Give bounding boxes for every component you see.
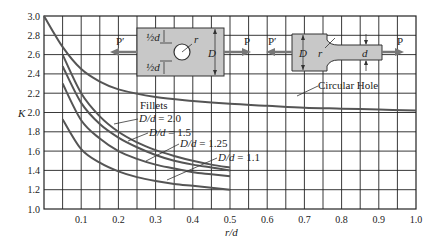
fillets-label: Fillets <box>140 99 168 111</box>
x-axis-label: r/d <box>225 226 238 238</box>
hole-top-dim: ½d <box>146 31 160 43</box>
hole-radius-label: r <box>194 33 199 45</box>
hole-left-load: P′ <box>116 35 125 47</box>
y-tick-label: 2.8 <box>28 30 41 41</box>
fillet-left-load: P′ <box>268 35 277 47</box>
x-tick-label: 0.2 <box>112 214 125 225</box>
x-tick-label: 0.4 <box>187 214 200 225</box>
dd20-label: D/d = 2.0 <box>138 112 181 124</box>
fillet-radius-label: r <box>318 47 323 59</box>
dd125-label: D/d = 1.25 <box>179 137 228 149</box>
fillet-right-load: P <box>397 35 403 47</box>
x-tick-label: 0.5 <box>224 214 237 225</box>
axes: 1.01.21.41.61.82.02.22.42.62.83.00.10.20… <box>28 11 423 226</box>
fillet-wide-label: D <box>298 47 307 59</box>
x-tick-label: 0.3 <box>149 214 162 225</box>
y-tick-label: 1.2 <box>28 184 41 195</box>
x-tick-label: 0.7 <box>298 214 311 225</box>
curve-d-d-1-25 <box>63 84 230 177</box>
y-tick-label: 2.0 <box>28 107 41 118</box>
x-tick-label: 0.9 <box>373 214 386 225</box>
dd11-label: D/d = 1.1 <box>217 151 260 163</box>
hole-right-load: P <box>244 35 250 47</box>
y-tick-label: 3.0 <box>28 11 41 22</box>
x-tick-label: 1.0 <box>410 214 423 225</box>
x-tick-label: 0.8 <box>335 214 348 225</box>
hole-bottom-dim: ½d <box>146 61 160 73</box>
fillet-bar-diagram: P′ P D d r <box>266 34 404 71</box>
y-tick-label: 1.0 <box>28 204 41 215</box>
y-axis-label: K <box>17 107 26 119</box>
x-tick-label: 0.1 <box>75 214 88 225</box>
y-tick-label: 1.6 <box>28 146 41 157</box>
y-tick-label: 1.4 <box>28 165 41 176</box>
y-tick-label: 1.8 <box>28 126 41 137</box>
fillet-narrow-label: d <box>362 47 368 59</box>
curve-d-d-1-1 <box>63 119 230 189</box>
hole-width-label: D <box>207 47 216 59</box>
y-tick-label: 2.2 <box>28 88 41 99</box>
y-tick-label: 2.6 <box>28 49 41 60</box>
circular-hole-label: Circular Hole <box>318 79 378 91</box>
x-tick-label: 0.6 <box>261 214 274 225</box>
stress-concentration-chart: 1.01.21.41.61.82.02.22.42.62.83.00.10.20… <box>0 0 438 245</box>
y-tick-label: 2.4 <box>28 68 41 79</box>
